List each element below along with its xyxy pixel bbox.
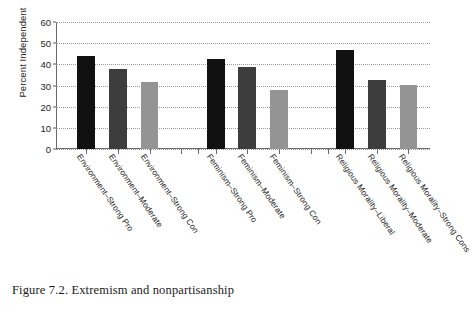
y-axis-tick-mark [53,127,56,128]
bar [238,67,256,149]
y-axis-tick-mark [53,43,56,44]
bar [109,69,127,149]
bar [400,85,418,149]
bar [77,56,95,149]
y-axis-tick-label: 60 [40,17,51,28]
y-axis-tick-label: 30 [40,80,51,91]
bar [207,59,225,149]
gridline [56,43,430,44]
y-axis-tick-label: 10 [40,122,51,133]
y-axis-tick-label: 50 [40,38,51,49]
plot-area: 0102030405060 [56,22,430,149]
y-axis-tick-mark [53,85,56,86]
gridline [56,22,430,23]
gridline [56,64,430,65]
x-axis-label: Environment–Strong Con [138,152,200,235]
x-axis-label: Religious Morality–Liberal [334,152,397,237]
bar [141,82,159,149]
bar [270,90,288,149]
bar [368,80,386,149]
y-axis-tick-mark [53,149,56,150]
y-axis-tick-mark [53,22,56,23]
y-axis-tick-label: 0 [46,144,51,155]
x-axis-label: Environment–Moderate [107,152,165,229]
y-axis-tick-mark [53,64,56,65]
figure-caption: Figure 7.2. Extremism and nonpartisanshi… [12,283,234,298]
chart-plot: Percent Independent 0102030405060 Enviro… [0,0,438,270]
y-axis-title: Percent Independent [17,0,28,119]
gridline [56,149,430,150]
y-axis-tick-label: 40 [40,59,51,70]
x-axis-labels: Environment–Strong ProEnvironment–Modera… [56,152,430,270]
y-axis-tick-mark [53,106,56,107]
x-axis-label: Environment–Strong Pro [75,152,136,233]
y-axis-tick-label: 20 [40,101,51,112]
bar [336,50,354,149]
